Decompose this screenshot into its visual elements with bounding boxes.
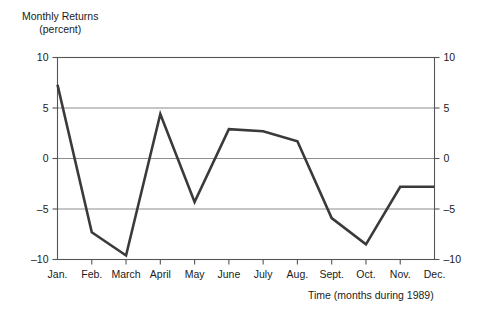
y-tick-label-left: –10: [31, 253, 49, 265]
x-axis-label-oct: Oct.: [356, 268, 375, 280]
x-axis-label-june: June: [217, 268, 240, 280]
x-axis-label-april: April: [150, 268, 171, 280]
x-axis-ticks: [92, 260, 400, 265]
x-axis-label-july: July: [254, 268, 273, 280]
chart-container: Monthly Returns (percent) Time (months d…: [0, 0, 490, 318]
y-tick-label-right: –5: [444, 203, 456, 215]
y-axis-ticks-left: 1050–5–10: [31, 51, 58, 265]
x-axis-label-jan: Jan.: [48, 268, 68, 280]
y-axis-ticks-right: 1050–5–10: [435, 51, 462, 265]
y-tick-label-left: –5: [37, 203, 49, 215]
y-tick-label-right: 0: [444, 152, 450, 164]
x-axis-month-labels: Jan.Feb.MarchAprilMayJuneJulyAug.Sept.Oc…: [48, 268, 446, 280]
y-tick-label-left: 10: [37, 51, 49, 63]
x-axis-label-march: March: [111, 268, 140, 280]
y-tick-label-left: 0: [43, 152, 49, 164]
x-axis-label-sept: Sept.: [319, 268, 344, 280]
x-axis-label-feb: Feb.: [81, 268, 102, 280]
x-axis-label-aug: Aug.: [287, 268, 309, 280]
gridlines: [58, 108, 435, 209]
x-axis-label-may: May: [185, 268, 206, 280]
y-tick-label-right: 10: [444, 51, 456, 63]
returns-series-line: [58, 85, 435, 256]
y-tick-label-right: –10: [444, 253, 462, 265]
y-tick-label-right: 5: [444, 102, 450, 114]
x-axis-label-dec: Dec.: [424, 268, 446, 280]
y-tick-label-left: 5: [43, 102, 49, 114]
x-axis-label-nov: Nov.: [390, 268, 411, 280]
line-chart-svg: 1050–5–10 1050–5–10 Jan.Feb.MarchAprilMa…: [0, 0, 490, 318]
